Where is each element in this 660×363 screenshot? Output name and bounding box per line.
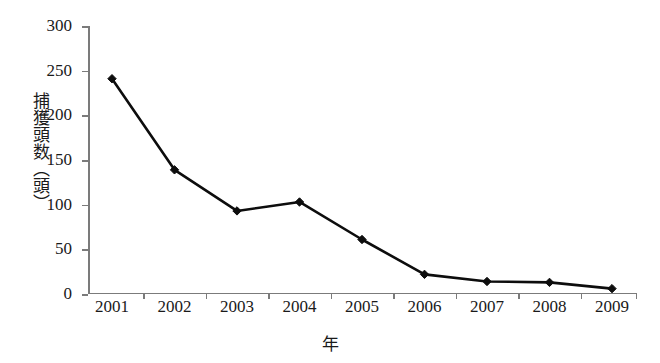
x-axis-tick-labels: 200120022003200420052006200720082009 <box>88 297 637 321</box>
y-tick-label: 200 <box>47 105 73 125</box>
x-tick-label: 2004 <box>283 297 317 317</box>
x-tick-label: 2003 <box>220 297 254 317</box>
y-tick-mark <box>82 115 88 117</box>
x-axis-title: 年 <box>0 330 660 355</box>
x-tick-label: 2007 <box>470 297 504 317</box>
plot-area <box>88 26 637 294</box>
y-tick-label: 150 <box>47 150 73 170</box>
y-axis-tick-labels: 050100150200250300 <box>0 26 80 294</box>
x-tick-label: 2002 <box>158 297 192 317</box>
y-tick-mark <box>82 294 88 296</box>
y-tick-mark <box>82 205 88 207</box>
y-tick-mark <box>82 160 88 162</box>
y-tick-label: 300 <box>47 16 73 36</box>
y-tick-label: 250 <box>47 61 73 81</box>
data-point-marker <box>483 277 491 285</box>
x-tick-label: 2008 <box>533 297 567 317</box>
y-tick-mark <box>82 249 88 251</box>
line-chart: 捕獲頭数（頭） 050100150200250300 2001200220032… <box>0 0 660 363</box>
y-tick-label: 0 <box>64 284 73 304</box>
x-tick-label: 2001 <box>95 297 129 317</box>
x-tick-label: 2009 <box>595 297 629 317</box>
x-tick-label: 2006 <box>408 297 442 317</box>
series-line <box>112 79 612 289</box>
y-tick-label: 50 <box>55 239 72 259</box>
series-group <box>88 26 637 294</box>
data-point-marker <box>608 284 616 292</box>
y-tick-mark <box>82 71 88 73</box>
data-point-marker <box>545 278 553 286</box>
y-tick-label: 100 <box>47 195 73 215</box>
x-tick-label: 2005 <box>345 297 379 317</box>
y-tick-mark <box>82 26 88 28</box>
